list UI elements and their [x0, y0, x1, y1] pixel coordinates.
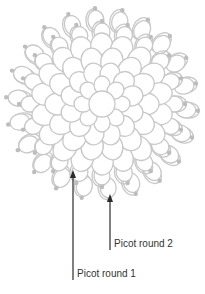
label-picot-round-2: Picot round 2 [114, 238, 173, 250]
crochet-flower-diagram [0, 0, 205, 294]
flower-petals [4, 6, 200, 202]
label-picot-round-1: Picot round 1 [77, 268, 136, 280]
